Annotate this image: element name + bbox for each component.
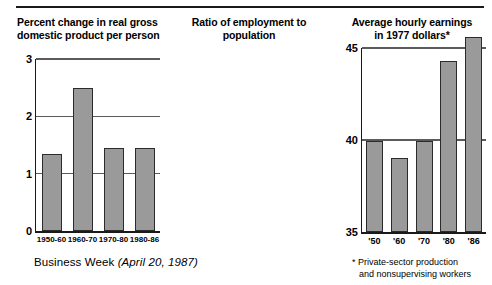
x-tick-label-gdp-3: 1980-86 — [130, 236, 159, 244]
x-tick-label-gdp-0: 1950-60 — [37, 236, 66, 244]
footnote-line1: * Private-sector production — [352, 256, 492, 268]
source-note: Business Week (April 20, 1987) — [34, 256, 198, 268]
bar-gdp-0 — [42, 154, 62, 231]
chart-title-earnings: Average hourly earnings in 1977 dollars* — [332, 16, 492, 42]
y-tick-label-gdp-1: 1 — [26, 168, 32, 179]
y-tick-label-gdp-0: 0 — [26, 226, 32, 237]
y-axis-gdp — [35, 59, 37, 231]
footnote-line2: and nonsupervising workers — [352, 268, 492, 280]
x-axis-gdp — [35, 231, 161, 233]
chart-title-gdp-line1: Percent change in real gross — [17, 16, 158, 28]
bar-gdp-1 — [73, 88, 93, 231]
x-tick-label-gdp-2: 1970-80 — [99, 236, 128, 244]
chart-title-gdp-line2: domestic product per person — [17, 29, 160, 41]
chart-title-employment: Ratio of employment to population — [166, 16, 332, 42]
chart-title-earnings-line1: Average hourly earnings — [352, 16, 472, 28]
chart-title-employment-line1: Ratio of employment to — [192, 16, 306, 28]
gridline-gdp-3 — [36, 58, 160, 59]
chart-title-employment-line2: population — [223, 29, 276, 41]
figure-root: Percent change in real gross domestic pr… — [0, 0, 492, 285]
gridline-gdp-2 — [36, 116, 160, 117]
chart-panel-employment: Ratio of employment to population 354045… — [166, 0, 332, 285]
y-tick-label-gdp-2: 2 — [26, 111, 32, 122]
bar-gdp-2 — [104, 148, 124, 231]
chart-title-earnings-line2: in 1977 dollars* — [374, 29, 449, 41]
footnote: * Private-sector production and nonsuper… — [352, 256, 492, 280]
x-tick-label-gdp-1: 1960-70 — [68, 236, 97, 244]
plot-area-gdp: 01231950-601960-701970-801980-86 — [36, 59, 160, 231]
chart-title-gdp: Percent change in real gross domestic pr… — [0, 16, 167, 42]
bar-gdp-3 — [135, 148, 155, 231]
y-tick-label-gdp-3: 3 — [26, 54, 32, 65]
chart-panel-earnings: Average hourly earnings in 1977 dollars*… — [332, 0, 492, 285]
chart-panel-gdp: Percent change in real gross domestic pr… — [0, 0, 166, 285]
source-date: (April 20, 1987) — [118, 256, 198, 268]
source-publication: Business Week — [34, 256, 114, 268]
